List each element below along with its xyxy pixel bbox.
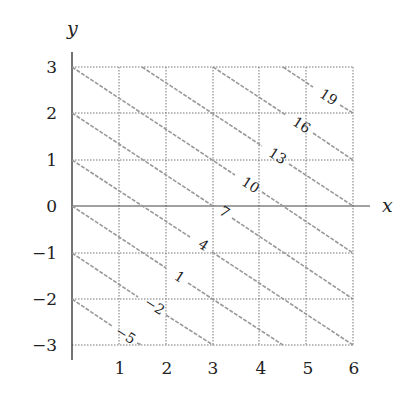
y-tick-label: 3 [46, 57, 57, 77]
x-tick-label: 4 [256, 358, 267, 378]
contour-level-19 [283, 67, 353, 113]
x-tick-labels: 1 2 3 4 5 6 [115, 358, 360, 378]
y-tick-label: 2 [46, 103, 57, 123]
contour-label: 7 [217, 203, 233, 221]
x-tick-label: 5 [303, 358, 314, 378]
contour-label: 10 [239, 173, 263, 196]
y-tick-label: 1 [46, 150, 57, 170]
contour-label: 13 [266, 144, 290, 167]
contour-label: 4 [196, 236, 212, 254]
y-tick-labels: 3 2 1 0 −1 −2 −3 [32, 57, 57, 355]
x-tick-label: 1 [115, 358, 126, 378]
x-tick-label: 6 [349, 358, 360, 378]
y-tick-label: −3 [32, 335, 57, 355]
y-tick-label: 0 [46, 196, 57, 216]
contour-label: 19 [317, 85, 341, 108]
x-tick-label: 3 [208, 358, 219, 378]
contour-label: 16 [290, 113, 314, 136]
y-tick-label: −2 [32, 289, 57, 309]
contour-label: 1 [172, 268, 188, 286]
contour-label: −5 [113, 322, 139, 347]
contour-plot: −5 −2 1 4 7 10 13 16 19 3 2 1 0 −1 −2 −3… [0, 0, 417, 397]
y-tick-label: −1 [32, 243, 57, 263]
x-axis-label: x [382, 194, 393, 216]
contour-label: −2 [142, 293, 168, 318]
x-tick-label: 2 [162, 358, 173, 378]
y-axis-label: y [66, 17, 78, 39]
